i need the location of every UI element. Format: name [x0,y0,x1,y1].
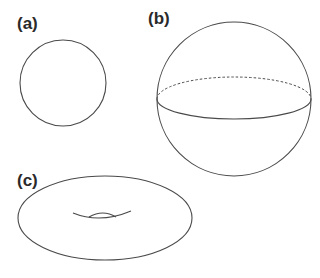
sphere-shape [157,22,311,176]
torus-shape [18,176,192,260]
sphere-equator-front [157,99,311,119]
torus-hole-lower-curve [73,211,131,218]
figure-canvas [0,0,320,278]
circle-shape [20,40,106,126]
sphere-outline [157,22,311,176]
sphere-equator-back [157,77,311,99]
